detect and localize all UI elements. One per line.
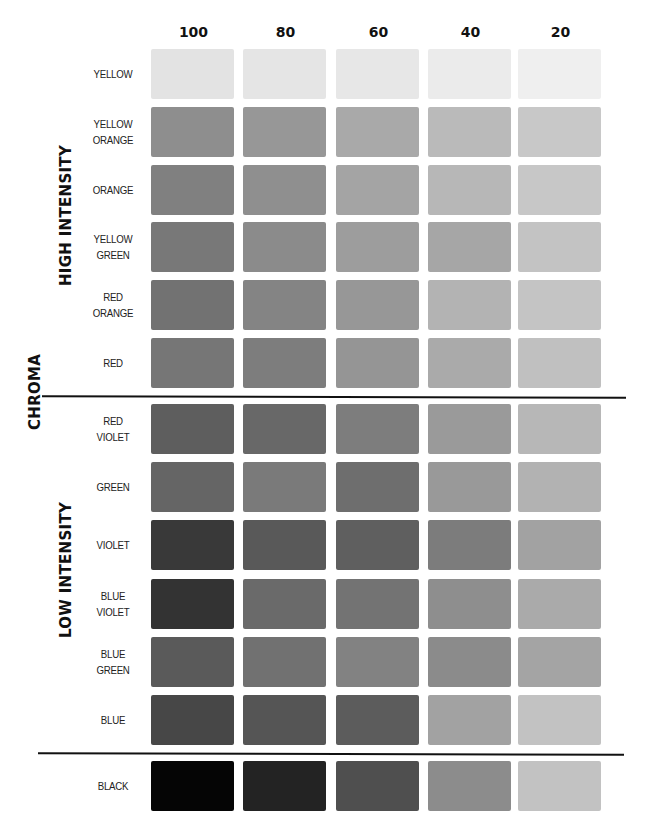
- row-label: RED VIOLET: [84, 413, 142, 445]
- color-swatch: [151, 695, 234, 745]
- color-swatch: [243, 280, 326, 330]
- color-swatch: [336, 761, 419, 811]
- color-swatch: [151, 579, 234, 629]
- row-label: RED ORANGE: [84, 289, 142, 321]
- color-swatch: [243, 462, 326, 512]
- row-label: BLACK: [84, 778, 142, 794]
- low-intensity-label: LOW INTENSITY: [57, 502, 75, 638]
- color-swatch: [243, 404, 326, 454]
- color-swatch: [336, 520, 419, 570]
- color-swatch: [336, 280, 419, 330]
- color-swatch: [518, 579, 601, 629]
- color-swatch: [336, 49, 419, 99]
- color-swatch: [243, 761, 326, 811]
- row-label: ORANGE: [84, 182, 142, 198]
- section-divider-high-low: [42, 395, 626, 399]
- color-swatch: [151, 49, 234, 99]
- color-swatch: [243, 165, 326, 215]
- color-swatch: [428, 520, 511, 570]
- column-header-40: 40: [428, 24, 513, 40]
- color-swatch: [243, 107, 326, 157]
- row-label: YELLOW: [84, 66, 142, 82]
- color-swatch: [428, 107, 511, 157]
- row-label: BLUE: [84, 712, 142, 728]
- color-swatch: [151, 404, 234, 454]
- color-swatch: [151, 761, 234, 811]
- color-swatch: [151, 222, 234, 272]
- column-header-60: 60: [336, 24, 421, 40]
- color-swatch: [151, 520, 234, 570]
- column-header-100: 100: [151, 24, 236, 40]
- row-label: BLUE VIOLET: [84, 588, 142, 620]
- column-header-20: 20: [518, 24, 603, 40]
- row-label: RED: [84, 355, 142, 371]
- color-swatch: [243, 579, 326, 629]
- section-divider-black: [38, 752, 624, 756]
- color-swatch: [151, 107, 234, 157]
- color-swatch: [518, 222, 601, 272]
- color-swatch: [518, 462, 601, 512]
- color-swatch: [428, 280, 511, 330]
- color-swatch: [243, 338, 326, 388]
- color-swatch: [243, 637, 326, 687]
- color-swatch: [428, 579, 511, 629]
- row-label: GREEN: [84, 479, 142, 495]
- color-swatch: [518, 280, 601, 330]
- color-swatch: [243, 695, 326, 745]
- color-swatch: [151, 338, 234, 388]
- color-swatch: [518, 338, 601, 388]
- color-swatch: [428, 462, 511, 512]
- color-swatch: [518, 107, 601, 157]
- color-swatch: [151, 462, 234, 512]
- color-swatch: [428, 761, 511, 811]
- color-swatch: [336, 579, 419, 629]
- color-swatch: [428, 338, 511, 388]
- color-swatch: [336, 637, 419, 687]
- color-swatch: [151, 280, 234, 330]
- color-swatch: [243, 49, 326, 99]
- color-swatch: [336, 165, 419, 215]
- color-swatch: [428, 637, 511, 687]
- color-swatch: [336, 338, 419, 388]
- color-swatch: [518, 165, 601, 215]
- color-swatch: [428, 165, 511, 215]
- color-swatch: [518, 695, 601, 745]
- color-swatch: [428, 404, 511, 454]
- color-swatch: [336, 462, 419, 512]
- row-label: VIOLET: [84, 537, 142, 553]
- color-swatch: [243, 520, 326, 570]
- row-label: YELLOW ORANGE: [84, 116, 142, 148]
- row-label: YELLOW GREEN: [84, 231, 142, 263]
- color-swatch: [336, 695, 419, 745]
- high-intensity-label: HIGH INTENSITY: [57, 145, 75, 286]
- color-swatch: [428, 695, 511, 745]
- color-swatch: [428, 222, 511, 272]
- color-swatch: [518, 637, 601, 687]
- chroma-label: CHROMA: [26, 354, 44, 430]
- color-swatch: [518, 49, 601, 99]
- color-swatch: [428, 49, 511, 99]
- color-swatch: [151, 637, 234, 687]
- color-swatch: [243, 222, 326, 272]
- color-swatch: [336, 404, 419, 454]
- color-swatch: [518, 761, 601, 811]
- color-swatch: [518, 404, 601, 454]
- color-swatch: [151, 165, 234, 215]
- color-swatch: [518, 520, 601, 570]
- color-swatch: [336, 107, 419, 157]
- color-swatch: [336, 222, 419, 272]
- row-label: BLUE GREEN: [84, 646, 142, 678]
- column-header-80: 80: [243, 24, 328, 40]
